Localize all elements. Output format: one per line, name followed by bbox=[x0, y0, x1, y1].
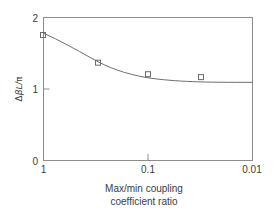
chart-svg: 2 1 0 1 0.1 0.01 ΔβL/π Max/min coupling … bbox=[0, 0, 278, 214]
x-ticklabel-0point1: 0.1 bbox=[141, 164, 155, 175]
y-ticklabel-mid: 1 bbox=[32, 84, 38, 95]
y-axis-title: ΔβL/π bbox=[14, 76, 24, 101]
x-ticklabel-0point01: 0.01 bbox=[242, 164, 262, 175]
y-ticklabel-top: 2 bbox=[32, 13, 38, 24]
x-ticklabel-1: 1 bbox=[41, 164, 47, 175]
x-axis-title-line1: Max/min coupling bbox=[105, 183, 183, 194]
y-ticklabel-bottom: 0 bbox=[32, 156, 38, 167]
y-axis-title-pi: π bbox=[14, 76, 24, 82]
chart-figure: 2 1 0 1 0.1 0.01 ΔβL/π Max/min coupling … bbox=[0, 0, 278, 214]
x-axis-title-line2: coefficient ratio bbox=[110, 196, 178, 207]
